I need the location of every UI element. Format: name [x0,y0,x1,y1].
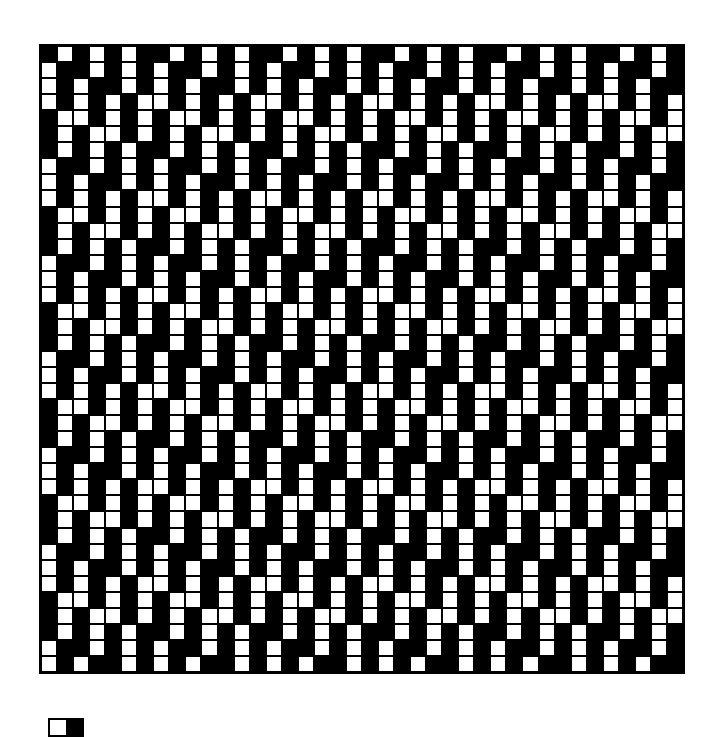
white-cell [667,319,683,335]
white-cell [330,511,346,527]
white-cell [651,255,667,271]
white-cell [506,592,522,608]
black-cell [41,592,57,608]
white-cell [201,62,217,78]
white-cell [185,207,201,223]
black-cell [73,319,89,335]
white-cell [218,207,234,223]
black-cell [619,367,635,383]
black-cell [362,46,378,62]
black-cell [105,351,121,367]
white-cell [153,94,169,110]
black-cell [587,447,603,463]
black-cell [619,656,635,672]
black-cell [218,560,234,576]
white-cell [442,126,458,142]
white-cell [89,640,105,656]
white-cell [314,511,330,527]
white-cell [394,335,410,351]
white-cell [121,158,137,174]
black-cell [522,335,538,351]
white-cell [555,399,571,415]
black-cell [282,576,298,592]
black-cell [362,463,378,479]
white-cell [474,110,490,126]
black-cell [442,640,458,656]
black-cell [73,62,89,78]
black-cell [378,319,394,335]
black-cell [314,463,330,479]
black-cell [571,110,587,126]
white-cell [314,158,330,174]
black-cell [185,126,201,142]
white-cell [635,190,651,206]
white-cell [266,287,282,303]
black-cell [442,560,458,576]
black-cell [587,255,603,271]
black-cell [571,608,587,624]
white-cell [57,207,73,223]
white-cell [442,399,458,415]
black-cell [73,640,89,656]
black-cell [169,158,185,174]
black-cell [314,271,330,287]
black-cell [362,528,378,544]
white-cell [298,479,314,495]
white-cell [603,640,619,656]
white-cell [298,656,314,672]
black-cell [378,415,394,431]
black-cell [201,367,217,383]
black-cell [555,158,571,174]
black-cell [105,158,121,174]
black-cell [506,463,522,479]
white-cell [330,303,346,319]
white-cell [57,46,73,62]
white-cell [651,447,667,463]
black-cell [153,511,169,527]
white-cell [394,126,410,142]
black-cell [571,479,587,495]
white-cell [587,207,603,223]
black-cell [587,560,603,576]
black-cell [362,431,378,447]
white-cell [105,287,121,303]
black-cell [185,528,201,544]
black-cell [105,174,121,190]
black-cell [442,78,458,94]
black-cell [539,190,555,206]
white-cell [73,303,89,319]
white-cell [426,415,442,431]
white-cell [635,479,651,495]
white-cell [571,463,587,479]
black-cell [619,463,635,479]
white-cell [426,62,442,78]
black-cell [474,463,490,479]
black-cell [169,479,185,495]
black-cell [651,656,667,672]
black-cell [474,62,490,78]
black-cell [506,560,522,576]
black-cell [458,94,474,110]
black-cell [571,190,587,206]
black-cell [218,640,234,656]
white-cell [330,479,346,495]
black-cell [153,431,169,447]
black-cell [153,303,169,319]
black-cell [185,447,201,463]
white-cell [41,463,57,479]
white-cell [73,592,89,608]
black-cell [73,415,89,431]
black-cell [587,640,603,656]
white-cell [89,431,105,447]
black-cell [41,415,57,431]
black-cell [426,592,442,608]
white-cell [458,528,474,544]
black-cell [121,592,137,608]
white-cell [571,174,587,190]
black-cell [330,431,346,447]
black-cell [282,78,298,94]
white-cell [89,608,105,624]
black-cell [426,174,442,190]
black-cell [250,640,266,656]
white-cell [282,207,298,223]
